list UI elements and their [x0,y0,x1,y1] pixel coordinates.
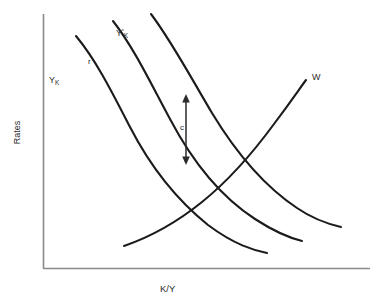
y-axis-label: Rates [13,108,22,158]
chart-figure: YK r Y'K W c Rates K/Y [0,0,383,305]
chart-plot-area [0,0,383,305]
shift-arrow-head-up [182,94,190,103]
curve-label-yk: YK [49,76,59,86]
curve-label-r: r [88,58,91,66]
curve-yk-prime [151,14,341,227]
shift-annotation-label: c [180,124,184,132]
curve-yk [76,36,267,253]
curve-label-yk-prime: Y'K [116,28,128,39]
curve-label-yk-prime-subscript: K [124,32,128,39]
shift-arrow-head-down [182,157,190,166]
curve-label-w: W [312,73,321,82]
x-axis-label: K/Y [160,284,175,294]
curve-label-yk-subscript: K [55,79,59,86]
curve-r [113,21,302,241]
